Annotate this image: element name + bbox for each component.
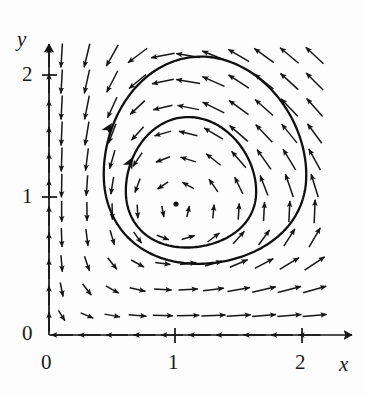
axes [42,44,352,343]
field-arrow [61,147,62,171]
field-arrow [152,79,174,84]
field-arrow [260,176,268,196]
field-arrow [303,314,327,316]
field-arrow [111,177,114,194]
vector-field [49,43,327,335]
field-arrow [280,258,299,270]
field-arrow [305,257,325,270]
field-arrow [280,73,298,89]
field-arrow [229,100,249,114]
field-arrow [86,229,88,246]
field-arrow [84,256,89,271]
field-arrow [238,203,239,219]
field-arrow [61,121,62,145]
field-arrow [105,314,120,317]
equilibrium-point [173,201,178,206]
field-arrow [230,126,248,142]
field-arrow [314,200,315,224]
field-arrow [106,45,118,66]
field-arrow [278,286,301,292]
field-arrow [157,235,169,239]
field-arrow [85,96,90,120]
field-arrow [131,260,144,267]
field-arrow [283,149,296,170]
field-arrow [280,48,299,64]
field-arrow [213,205,214,219]
field-arrow [179,131,197,135]
field-arrow [203,288,224,291]
x-axis-label: x [339,354,348,375]
field-arrow [306,47,324,63]
field-arrow [252,315,276,317]
field-arrow [110,230,114,245]
field-arrow [228,287,250,291]
field-arrow [181,157,196,162]
field-arrow [110,150,115,168]
field-arrow [256,125,273,143]
field-arrow [228,49,249,61]
field-arrow [106,286,119,293]
x-tick-label-0: 0 [41,352,52,373]
x-tick-label-1: 1 [168,352,179,373]
field-arrow [134,232,142,243]
field-arrow [129,315,147,316]
field-arrow [107,71,118,92]
field-arrow [232,151,246,167]
field-arrow [187,206,190,217]
field-arrow [306,73,323,90]
field-arrow [182,236,195,240]
field-arrow [309,149,321,170]
field-arrow [84,44,90,67]
plot-canvas [0,0,366,396]
field-arrow [61,43,63,67]
field-arrow [254,48,274,62]
field-arrow [264,202,265,221]
x-tick-label-2: 2 [295,352,306,373]
field-arrow [307,124,321,143]
field-arrow [135,179,140,193]
field-arrow [255,99,273,115]
y-tick-label-2: 2 [22,64,33,85]
field-arrow [277,314,301,316]
field-arrow [162,206,164,217]
field-arrow [137,205,138,219]
field-arrow [209,179,218,192]
field-arrow [86,175,87,196]
field-arrow [202,77,224,87]
field-arrow [108,258,117,270]
phase-portrait-figure: y x 2 1 0 0 1 2 [0,0,366,396]
field-arrow [208,233,220,242]
field-arrow [130,288,146,292]
field-arrow [81,313,94,318]
field-arrow [83,284,92,295]
field-arrow [176,79,200,83]
y-tick-label-0: 0 [22,323,33,344]
y-axis-label: y [17,29,26,50]
field-arrow [179,289,198,290]
field-arrow [303,286,326,293]
field-arrow [131,127,143,141]
field-arrow [61,228,62,247]
field-arrow [252,287,276,292]
field-arrow [60,283,63,297]
field-arrow [227,315,251,316]
field-arrow [61,69,62,93]
field-arrow [155,131,172,136]
field-arrow [182,182,193,188]
field-arrow [153,105,172,110]
field-arrow [154,289,172,290]
field-arrow [255,259,274,269]
field-arrow [151,53,175,58]
field-arrow [289,201,290,222]
field-arrow [284,229,295,246]
field-arrow [235,177,243,194]
field-arrow [108,97,117,118]
field-arrow [285,174,293,197]
field-arrow [229,75,249,88]
field-arrow [311,174,318,197]
field-arrow [206,154,221,166]
field-arrow [156,157,170,162]
field-arrow [86,148,89,170]
field-arrow [61,95,62,119]
field-arrow [128,48,147,62]
